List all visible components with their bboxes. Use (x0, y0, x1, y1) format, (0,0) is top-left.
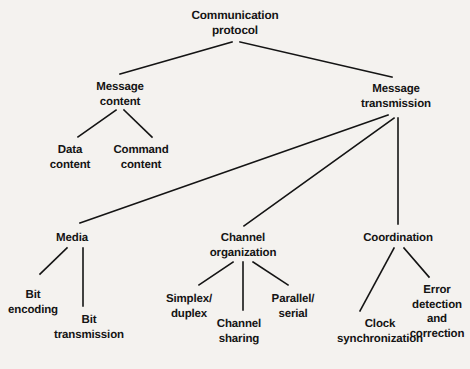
node-bit_transmission: Bit transmission (54, 313, 124, 342)
node-parallel_serial: Parallel/ serial (272, 292, 315, 321)
node-coordination: Coordination (363, 231, 433, 246)
node-error_detection: Error detection and correction (410, 283, 465, 341)
node-simplex_duplex: Simplex/ duplex (166, 292, 212, 321)
node-media: Media (56, 231, 88, 246)
node-data_content: Data content (50, 143, 90, 172)
edge-media-to-bit_encoding (40, 248, 67, 274)
edge-msg_content-to-command_content (124, 110, 152, 137)
node-channel_sharing: Channel sharing (217, 317, 261, 346)
edge-msg_content-to-data_content (78, 110, 116, 137)
communication-protocol-tree-diagram: Communication protocolMessage contentMes… (0, 0, 470, 369)
edge-coordination-to-error_detection (404, 248, 429, 277)
edge-root-to-msg_transmission (240, 42, 392, 77)
node-command_content: Command content (113, 143, 168, 172)
node-bit_encoding: Bit encoding (8, 288, 58, 317)
edge-root-to-msg_content (120, 42, 232, 74)
node-root: Communication protocol (191, 8, 278, 37)
edge-coordination-to-clock_sync (360, 248, 394, 311)
edge-channel_org-to-simplex_duplex (199, 262, 233, 285)
edge-msg_transmission-to-channel_org (244, 118, 394, 226)
node-msg_transmission: Message transmission (361, 82, 431, 111)
node-msg_content: Message content (96, 80, 144, 109)
edge-channel_org-to-parallel_serial (253, 262, 288, 285)
node-channel_org: Channel organization (210, 231, 277, 260)
